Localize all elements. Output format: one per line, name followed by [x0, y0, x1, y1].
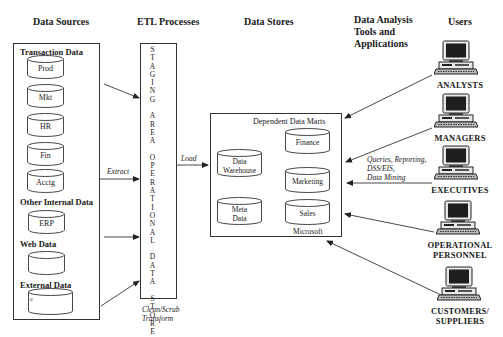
- database-label: HR: [27, 122, 64, 131]
- database-label: Finance: [285, 138, 330, 147]
- database-label: c: [30, 295, 73, 304]
- user-executives: EXECUTIVES: [420, 185, 500, 195]
- clean-scrub-label: Clean/Scrub: [142, 305, 180, 314]
- meta-line-1: Meta: [217, 205, 262, 214]
- tools-line-1: Queries, Reporting,: [367, 155, 426, 164]
- database-label: Mkt: [27, 93, 64, 102]
- computer-icon-executives: [434, 145, 478, 181]
- database-label: Prod: [27, 64, 64, 73]
- tools-line-3: Data Mining: [367, 173, 426, 182]
- computer-icon-operational-personnel: [436, 200, 480, 236]
- user-label: SUPPLIERS: [420, 316, 500, 326]
- database-erp: ERP: [28, 210, 65, 234]
- analysis-tools-label: Queries, Reporting, DSS/EIS, Data Mining: [367, 155, 426, 182]
- database-hr: HR: [27, 113, 64, 137]
- database-mkt: Mkt: [27, 84, 64, 108]
- staging-area-ods-text: STAGING AREA OPERATIONAL DATA STORE: [141, 46, 164, 336]
- dependent-data-marts-label: Dependent Data Marts: [253, 117, 325, 126]
- computer-icon-analysts: [434, 40, 478, 76]
- transform-text: Transform: [142, 314, 180, 323]
- database-acctg: Acctg: [27, 169, 64, 193]
- mart-marketing: Marketing: [285, 167, 330, 193]
- database-cylinder-icon: [28, 251, 65, 275]
- database-label: Acctg: [27, 178, 64, 187]
- database-label: Fin: [27, 151, 64, 160]
- staging-area-ods: STAGING AREA OPERATIONAL DATA STORE: [140, 43, 177, 299]
- user-label: CUSTOMERS/: [420, 306, 500, 316]
- computer-icon-customers-suppliers: [437, 266, 481, 302]
- database-label: Sales: [285, 209, 330, 218]
- user-operational-personnel: OPERATIONAL PERSONNEL: [418, 240, 502, 260]
- load-label: Load: [181, 154, 196, 163]
- warehouse-line-1: Data: [217, 157, 262, 166]
- user-managers: MANAGERS: [425, 133, 495, 143]
- database-web: [28, 251, 65, 275]
- database-external: c: [28, 288, 73, 315]
- user-label: MANAGERS: [425, 133, 495, 143]
- vendor-label: Microsoft: [293, 227, 323, 236]
- warehouse-line-2: Warehouse: [217, 166, 262, 175]
- other-internal-data-label: Other Internal Data: [20, 197, 93, 207]
- database-label: ERP: [28, 219, 65, 228]
- database-label: Meta Data: [217, 205, 262, 223]
- user-label: PERSONNEL: [418, 250, 502, 260]
- database-label: Data Warehouse: [217, 157, 262, 175]
- user-label: ANALYSTS: [425, 80, 495, 90]
- extract-label: Extract: [107, 167, 129, 176]
- mart-finance: Finance: [285, 128, 330, 154]
- user-analysts: ANALYSTS: [425, 80, 495, 90]
- computer-icon-managers: [434, 93, 478, 129]
- mart-sales: Sales: [285, 199, 330, 225]
- database-fin: Fin: [27, 142, 64, 166]
- database-prod: Prod: [27, 55, 64, 79]
- data-warehouse: Data Warehouse: [217, 149, 262, 177]
- user-label: EXECUTIVES: [420, 185, 500, 195]
- tools-line-2: DSS/EIS,: [367, 164, 426, 173]
- meta-line-2: Data: [217, 214, 262, 223]
- web-data-label: Web Data: [20, 239, 56, 249]
- user-label: OPERATIONAL: [418, 240, 502, 250]
- transform-label: Clean/Scrub Transform: [142, 305, 180, 323]
- user-customers-suppliers: CUSTOMERS/ SUPPLIERS: [420, 306, 500, 326]
- meta-data: Meta Data: [217, 197, 262, 225]
- database-label: Marketing: [285, 177, 330, 186]
